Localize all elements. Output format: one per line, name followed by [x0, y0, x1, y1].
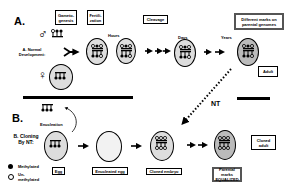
diagram-graphics — [0, 0, 291, 196]
